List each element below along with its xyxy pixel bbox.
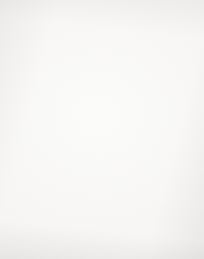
map-page: Rhode Island (0, 0, 204, 259)
us-map-figure (0, 0, 204, 259)
page-title: Rhode Island (77, 1, 151, 16)
scan-grain (0, 0, 204, 259)
